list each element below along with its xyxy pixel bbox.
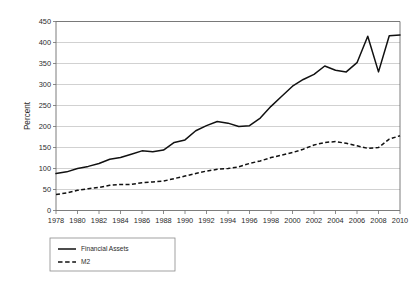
y-tick-label: 50 — [43, 185, 51, 194]
y-axis-title: Percent — [23, 101, 32, 130]
x-tick-labels-group: 1978198019821984198619881990199219941996… — [48, 216, 408, 225]
series-line-m2 — [56, 136, 400, 195]
y-tick-label: 350 — [39, 59, 51, 68]
x-tick-label: 2000 — [284, 216, 300, 225]
chart-figure: 050100150200250300350400450 197819801982… — [0, 0, 416, 283]
x-tick-label: 2002 — [306, 216, 322, 225]
line-chart: 050100150200250300350400450 197819801982… — [0, 0, 416, 283]
data-series-group — [56, 35, 400, 195]
legend-box — [50, 238, 175, 271]
y-tick-label: 100 — [39, 164, 51, 173]
chart-legend: Financial AssetsM2 — [50, 238, 175, 271]
x-tick-label: 1986 — [134, 216, 150, 225]
y-tick-label: 250 — [39, 101, 51, 110]
series-line-financial-assets — [56, 35, 400, 174]
x-tick-label: 1994 — [220, 216, 236, 225]
legend-label: Financial Assets — [81, 245, 129, 252]
x-tick-label: 1978 — [48, 216, 64, 225]
x-tick-label: 1996 — [241, 216, 257, 225]
legend-label: M2 — [81, 258, 90, 265]
y-tick-label: 150 — [39, 143, 51, 152]
x-tick-label: 2008 — [370, 216, 386, 225]
y-tick-label: 0 — [47, 206, 51, 215]
x-tick-label: 1982 — [91, 216, 107, 225]
x-tick-label: 2006 — [349, 216, 365, 225]
y-tick-label: 200 — [39, 122, 51, 131]
x-tick-label: 1990 — [177, 216, 193, 225]
axes-group — [56, 22, 400, 211]
x-tick-label: 2010 — [392, 216, 408, 225]
x-tick-label: 1988 — [155, 216, 171, 225]
x-tick-marks-group — [56, 211, 400, 215]
y-tick-label: 300 — [39, 80, 51, 89]
x-tick-label: 1984 — [112, 216, 128, 225]
y-tick-label: 450 — [39, 17, 51, 26]
y-tick-labels-group: 050100150200250300350400450 — [39, 17, 56, 215]
x-tick-label: 1998 — [263, 216, 279, 225]
gridlines-group — [56, 22, 400, 190]
x-tick-label: 2004 — [327, 216, 343, 225]
x-tick-label: 1992 — [198, 216, 214, 225]
x-tick-label: 1980 — [69, 216, 85, 225]
y-tick-label: 400 — [39, 38, 51, 47]
